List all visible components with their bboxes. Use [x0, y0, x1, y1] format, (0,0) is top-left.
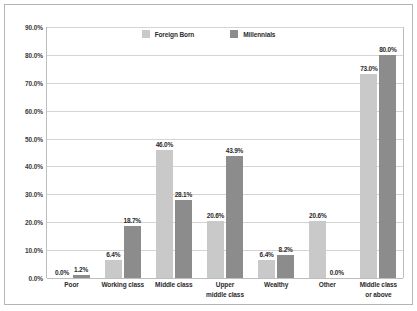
x-axis-category-label: Uppermiddle class [199, 280, 250, 300]
bar-slot: 0.0% [54, 27, 71, 278]
bar-pair: 73.0%80.0% [353, 27, 404, 278]
bar[interactable] [360, 74, 377, 278]
bar[interactable] [207, 221, 224, 278]
bar-slot: 28.1% [175, 27, 192, 278]
y-axis-tick-label: 80.0% [25, 51, 43, 58]
bar-group: 46.0%28.1% [148, 27, 199, 278]
x-axis-category-label: Other [302, 280, 353, 300]
bar-pair: 20.6%43.9% [199, 27, 250, 278]
bar[interactable] [124, 226, 141, 278]
legend-swatch-icon [230, 30, 238, 38]
bar-slot: 0.0% [328, 27, 345, 278]
x-axis-labels: PoorWorking classMiddle classUppermiddle… [46, 280, 404, 300]
x-axis-category-line: Poor [46, 280, 97, 290]
bar-slot: 18.7% [124, 27, 141, 278]
x-axis-category-line: middle class [199, 290, 250, 300]
chart-legend: Foreign BornMillennials [5, 30, 412, 38]
x-axis-category-line: Upper [199, 280, 250, 290]
bar[interactable] [277, 255, 294, 278]
bar-value-label: 46.0% [156, 141, 173, 148]
bar-group: 6.4%18.7% [97, 27, 148, 278]
bar-group: 20.6%0.0% [302, 27, 353, 278]
legend-swatch-icon [142, 30, 150, 38]
bar-value-label: 6.4% [260, 251, 274, 258]
y-axis-tick-label: 30.0% [25, 191, 43, 198]
bar-slot: 20.6% [309, 27, 326, 278]
bar[interactable] [309, 221, 326, 278]
x-axis-category-label: Middle classor above [353, 280, 404, 300]
bar-slot: 6.4% [258, 27, 275, 278]
bar-value-label: 0.0% [55, 269, 69, 276]
legend-entry[interactable]: Foreign Born [142, 30, 195, 38]
bar-slot: 73.0% [360, 27, 377, 278]
bar-groups: 0.0%1.2%6.4%18.7%46.0%28.1%20.6%43.9%6.4… [46, 27, 404, 278]
x-axis-category-label: Poor [46, 280, 97, 300]
y-axis-tick-label: 0.0% [29, 275, 43, 282]
x-axis-category-line: Middle class [148, 280, 199, 290]
bar-pair: 6.4%8.2% [251, 27, 302, 278]
bar-group: 0.0%1.2% [46, 27, 97, 278]
bar-value-label: 18.7% [123, 217, 140, 224]
bar-pair: 46.0%28.1% [148, 27, 199, 278]
bar-value-label: 1.2% [74, 266, 88, 273]
y-axis-tick-label: 10.0% [25, 247, 43, 254]
bar-value-label: 0.0% [330, 269, 344, 276]
bar-pair: 6.4%18.7% [97, 27, 148, 278]
bar[interactable] [379, 55, 396, 278]
bar-slot: 43.9% [226, 27, 243, 278]
bar[interactable] [73, 275, 90, 278]
bar-slot: 20.6% [207, 27, 224, 278]
bar-value-label: 73.0% [360, 65, 377, 72]
bar[interactable] [156, 150, 173, 278]
x-axis-category-line: Wealthy [251, 280, 302, 290]
bar-value-label: 6.4% [106, 251, 120, 258]
bar-slot: 6.4% [105, 27, 122, 278]
bar-group: 73.0%80.0% [353, 27, 404, 278]
legend-entry[interactable]: Millennials [230, 30, 275, 38]
bar-slot: 46.0% [156, 27, 173, 278]
legend-label: Foreign Born [155, 31, 195, 38]
bar-slot: 1.2% [73, 27, 90, 278]
bar[interactable] [175, 200, 192, 278]
bar[interactable] [226, 156, 243, 278]
y-axis-tick-label: 60.0% [25, 107, 43, 114]
y-axis-tick-label: 70.0% [25, 79, 43, 86]
bar-value-label: 20.6% [207, 212, 224, 219]
bar-value-label: 28.1% [175, 191, 192, 198]
bar-pair: 0.0%1.2% [46, 27, 97, 278]
bar-group: 6.4%8.2% [251, 27, 302, 278]
y-axis-tick-label: 40.0% [25, 163, 43, 170]
x-axis-category-line: or above [353, 290, 404, 300]
bar-value-label: 8.2% [279, 246, 293, 253]
bar-value-label: 43.9% [226, 147, 243, 154]
x-axis-category-label: Working class [97, 280, 148, 300]
legend-label: Millennials [243, 31, 275, 38]
bar-slot: 8.2% [277, 27, 294, 278]
x-axis-category-label: Middle class [148, 280, 199, 300]
bar-pair: 20.6%0.0% [302, 27, 353, 278]
x-axis-category-line: Middle class [353, 280, 404, 290]
x-axis-category-line: Other [302, 280, 353, 290]
x-axis-category-line: Working class [97, 280, 148, 290]
chart-container: 90.0%80.0%70.0%60.0%50.0%40.0%30.0%20.0%… [4, 4, 413, 305]
bar-value-label: 20.6% [309, 212, 326, 219]
bar-slot: 80.0% [379, 27, 396, 278]
bar[interactable] [105, 260, 122, 278]
y-axis-tick-label: 50.0% [25, 135, 43, 142]
bar-group: 20.6%43.9% [199, 27, 250, 278]
bar-value-label: 80.0% [379, 46, 396, 53]
y-axis-tick-label: 20.0% [25, 219, 43, 226]
bar[interactable] [258, 260, 275, 278]
x-axis-category-label: Wealthy [251, 280, 302, 300]
gridline: 0.0% [47, 278, 403, 279]
